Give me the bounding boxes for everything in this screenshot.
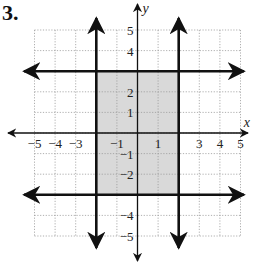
x-tick-label: −3	[69, 136, 83, 151]
x-tick-label: 1	[155, 136, 162, 151]
y-tick-label: −1	[120, 147, 134, 162]
x-tick-label: 3	[196, 136, 203, 151]
y-tick-label: 1	[127, 105, 134, 120]
x-tick-label: −4	[48, 136, 62, 151]
x-tick-label: 5	[237, 136, 244, 151]
y-tick-label: −5	[120, 229, 134, 244]
x-tick-label: 4	[217, 136, 224, 151]
x-axis-label: x	[243, 115, 251, 130]
y-tick-label: −4	[120, 208, 134, 223]
y-tick-label: −2	[120, 167, 134, 182]
y-axis-label: y	[141, 1, 150, 16]
y-tick-label: 5	[127, 23, 134, 38]
y-tick-label: 4	[127, 44, 134, 59]
y-tick-label: 2	[127, 85, 134, 100]
coordinate-graph: xy −5−4−3−113455421−1−2−4−5	[0, 0, 256, 265]
x-tick-label: −5	[28, 136, 42, 151]
